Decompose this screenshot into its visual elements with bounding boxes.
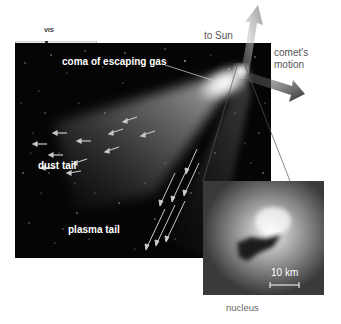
dust-tail-label: dust tail	[38, 160, 76, 171]
plasma-tail-label: plasma tail	[68, 224, 120, 235]
nucleus-caption: nucleus	[226, 302, 259, 313]
coma-label: coma of escaping gas	[62, 56, 166, 67]
scale-bar-label: 10 km	[271, 267, 298, 278]
comet-motion-line2: motion	[274, 59, 308, 71]
nucleus-inset-photo	[203, 181, 324, 295]
vis-band-label: VIS	[44, 27, 54, 33]
spectrum-bar	[15, 35, 97, 43]
to-sun-label: to Sun	[204, 30, 233, 41]
comet-motion-label: comet's motion	[274, 47, 308, 71]
comet-motion-line1: comet's	[274, 47, 308, 59]
